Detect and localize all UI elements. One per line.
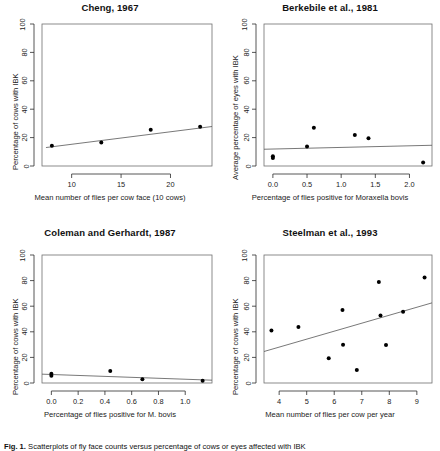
plot-area — [0, 225, 220, 425]
x-tick-label: 0.0 — [46, 397, 56, 406]
figure-caption: Fig. 1. Scatterplots of fly face counts … — [0, 442, 440, 451]
y-tick-label: 0 — [12, 378, 28, 388]
panel-title: Steelman et al., 1993 — [220, 227, 440, 238]
x-tick-label: 0.0 — [268, 180, 278, 189]
scatter-panel-cheng-1967: Cheng, 1967 Percentage of cows with IBK … — [0, 0, 220, 213]
y-tick-label: 40 — [12, 327, 28, 337]
panel-title: Coleman and Gerhardt, 1987 — [0, 227, 220, 238]
y-tick-label: 80 — [12, 276, 28, 286]
x-tick-label: 10 — [68, 180, 76, 189]
plot-area — [220, 225, 440, 425]
panel-title: Cheng, 1967 — [0, 2, 220, 13]
y-tick-label: 0 — [234, 378, 250, 388]
y-tick-label: 40 — [234, 104, 250, 114]
x-axis-label: Mean number of flies per cow face (10 co… — [0, 193, 220, 202]
y-tick-label: 60 — [12, 76, 28, 86]
y-tick-label: 0 — [12, 161, 28, 171]
x-tick-label: 5 — [305, 397, 309, 406]
x-tick-label: 2.0 — [404, 180, 414, 189]
x-axis-label: Mean number of flies per cow per year — [220, 410, 440, 419]
figure-caption-text: Scatterplots of fly face counts versus p… — [28, 442, 306, 451]
y-axis-label: Percentage of cows with IBK — [11, 73, 20, 170]
x-tick-label: 0.2 — [73, 397, 83, 406]
x-axis-label: Percentage of flies positive for M. bovi… — [0, 410, 220, 419]
x-tick-label: 1.0 — [336, 180, 346, 189]
scatter-panel-berkebile-1981: Berkebile et al., 1981 Average percentag… — [220, 0, 440, 213]
x-tick-label: 6 — [332, 397, 336, 406]
x-tick-label: 0.4 — [100, 397, 110, 406]
x-tick-label: 1.5 — [370, 180, 380, 189]
panel-title: Berkebile et al., 1981 — [220, 2, 440, 13]
y-tick-label: 20 — [12, 133, 28, 143]
y-tick-label: 100 — [234, 250, 250, 260]
y-tick-label: 40 — [234, 327, 250, 337]
x-tick-label: 4 — [277, 397, 281, 406]
y-tick-label: 20 — [234, 133, 250, 143]
scatter-panel-steelman-1993: Steelman et al., 1993 Percentage of cows… — [220, 225, 440, 425]
x-axis-label: Percentage of flies positive for Moraxel… — [220, 193, 440, 202]
plot-area — [0, 0, 220, 213]
scatter-panel-coleman-gerhardt-1987: Coleman and Gerhardt, 1987 Percentage of… — [0, 225, 220, 425]
y-tick-label: 60 — [234, 76, 250, 86]
x-tick-label: 0.8 — [153, 397, 163, 406]
y-tick-label: 20 — [234, 352, 250, 362]
y-tick-label: 60 — [234, 301, 250, 311]
x-tick-label: 0.5 — [302, 180, 312, 189]
x-tick-label: 20 — [166, 180, 174, 189]
x-tick-label: 15 — [117, 180, 125, 189]
y-tick-label: 80 — [12, 47, 28, 57]
y-tick-label: 100 — [234, 19, 250, 29]
figure-caption-prefix: Fig. 1. — [4, 442, 26, 451]
x-tick-label: 8 — [387, 397, 391, 406]
y-tick-label: 40 — [12, 104, 28, 114]
figure-panel-grid: Cheng, 1967 Percentage of cows with IBK … — [0, 0, 440, 425]
y-tick-label: 100 — [12, 250, 28, 260]
x-tick-label: 7 — [360, 397, 364, 406]
x-tick-label: 1.0 — [180, 397, 190, 406]
y-tick-label: 100 — [12, 19, 28, 29]
y-tick-label: 0 — [234, 161, 250, 171]
y-tick-label: 80 — [234, 276, 250, 286]
x-tick-label: 9 — [415, 397, 419, 406]
x-tick-label: 0.6 — [127, 397, 137, 406]
y-tick-label: 80 — [234, 47, 250, 57]
y-tick-label: 20 — [12, 352, 28, 362]
y-tick-label: 60 — [12, 301, 28, 311]
